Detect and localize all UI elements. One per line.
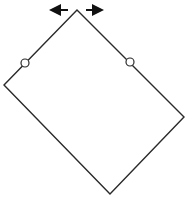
hinge-right-circle (126, 58, 134, 66)
tilted-rectangle (4, 10, 184, 194)
diagram-canvas (0, 0, 191, 202)
hinge-left-circle (21, 59, 29, 67)
